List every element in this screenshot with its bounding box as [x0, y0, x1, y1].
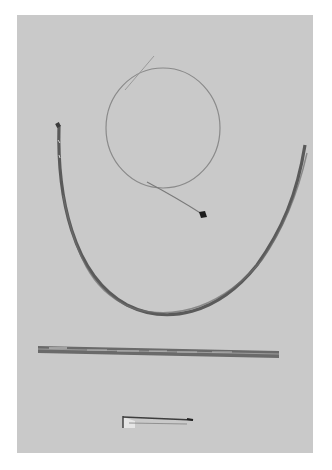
photograph: Medical catheterization devices laid out… [17, 15, 313, 453]
devices-illustration [17, 15, 313, 453]
coiled-guidewire [106, 56, 220, 218]
small-connector [123, 416, 193, 428]
straight-dilator [38, 346, 279, 358]
curved-catheter [57, 123, 307, 315]
